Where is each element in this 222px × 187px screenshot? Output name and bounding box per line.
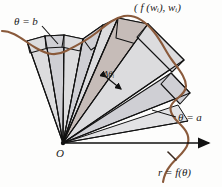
label-curve-equation: r = f(θ)	[158, 167, 191, 178]
label-sample-point: ( f (wᵢ), wᵢ)	[134, 2, 181, 13]
polar-area-figure: θ = b ( f (wᵢ), wᵢ) θ = a r = f(θ) O Δθᵢ	[0, 0, 222, 187]
label-theta-equals-b: θ = b	[14, 16, 38, 27]
origin-point	[61, 141, 65, 145]
label-delta-theta: Δθᵢ	[103, 70, 114, 79]
leader-line-curve	[168, 152, 176, 160]
label-theta-equals-a: θ = a	[178, 112, 202, 123]
polar-diagram-canvas	[0, 0, 222, 187]
label-origin: O	[56, 148, 64, 159]
